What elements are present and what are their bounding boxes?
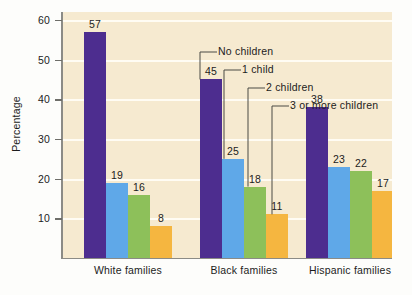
bar bbox=[84, 32, 106, 258]
y-axis-tick bbox=[55, 99, 62, 101]
bar bbox=[306, 107, 328, 258]
y-axis-tick-label: 30 bbox=[26, 133, 50, 145]
bar bbox=[328, 167, 350, 258]
bar bbox=[350, 171, 372, 258]
x-axis-group-label: White families bbox=[94, 264, 162, 276]
grouped-bar-chart: 102030405060 Percentage 5719168452518113… bbox=[0, 0, 412, 295]
bar-value-label: 25 bbox=[227, 145, 239, 157]
bar bbox=[200, 79, 222, 258]
y-axis-tick-label: 10 bbox=[26, 212, 50, 224]
callout-label: No children bbox=[218, 45, 273, 57]
callout-label: 3 or more children bbox=[290, 99, 378, 111]
bar bbox=[372, 191, 392, 258]
y-axis-tick bbox=[55, 20, 62, 22]
bar-value-label: 23 bbox=[333, 153, 345, 165]
y-axis-tick-label: 40 bbox=[26, 93, 50, 105]
y-axis-line bbox=[61, 12, 63, 259]
bar-value-label: 16 bbox=[133, 181, 145, 193]
gridline bbox=[62, 20, 392, 22]
gridline bbox=[62, 60, 392, 62]
y-axis-tick-label: 60 bbox=[26, 14, 50, 26]
bar bbox=[244, 187, 266, 258]
y-axis-tick bbox=[55, 179, 62, 181]
bar bbox=[128, 195, 150, 258]
callout-label: 2 children bbox=[266, 81, 314, 93]
x-axis-group-label: Black families bbox=[211, 264, 278, 276]
y-axis-tick bbox=[55, 218, 62, 220]
y-axis-label: Percentage bbox=[10, 84, 22, 164]
bar-value-label: 11 bbox=[271, 200, 282, 212]
x-axis-group-label: Hispanic families bbox=[309, 264, 391, 276]
x-axis-line bbox=[61, 258, 392, 260]
y-axis-tick bbox=[55, 139, 62, 141]
bar bbox=[150, 226, 172, 258]
y-axis-tick-label: 20 bbox=[26, 173, 50, 185]
y-axis-tick bbox=[55, 60, 62, 62]
bar-value-label: 45 bbox=[205, 65, 217, 77]
gridline bbox=[62, 139, 392, 141]
bar-value-label: 57 bbox=[89, 18, 101, 30]
bar-value-label: 18 bbox=[249, 173, 261, 185]
callout-label: 1 child bbox=[242, 63, 274, 75]
bar-value-label: 8 bbox=[158, 212, 164, 224]
bar-value-label: 19 bbox=[111, 169, 123, 181]
bar-value-label: 17 bbox=[377, 177, 389, 189]
bar bbox=[106, 183, 128, 258]
bar-value-label: 22 bbox=[355, 157, 367, 169]
bar bbox=[222, 159, 244, 258]
y-axis-tick-label: 50 bbox=[26, 54, 50, 66]
bar bbox=[266, 214, 288, 258]
